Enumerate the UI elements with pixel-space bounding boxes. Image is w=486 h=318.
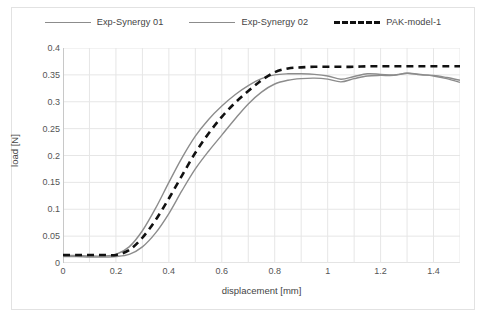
y-axis-tick-label: 0.3 [20, 97, 60, 107]
x-axis-tick-label: 0.4 [163, 266, 176, 276]
plot-area [63, 48, 460, 263]
x-axis-tick-label: 1.2 [374, 266, 387, 276]
y-axis-title: load [N] [9, 121, 20, 181]
y-axis-tick-labels: 00.050.10.150.20.250.30.350.4 [18, 48, 60, 263]
y-axis-tick-label: 0.05 [20, 231, 60, 241]
x-axis-tick-label: 0.2 [110, 266, 123, 276]
chart-legend: Exp-Synergy 01 Exp-Synergy 02 PAK-model-… [63, 13, 423, 31]
x-axis-tick-label: 1.4 [427, 266, 440, 276]
legend-item-exp-synergy-01: Exp-Synergy 01 [45, 17, 164, 27]
x-axis-tick-label: 1 [325, 266, 330, 276]
x-axis-title: displacement [mm] [63, 285, 460, 296]
x-axis-tick-label: 0 [60, 266, 65, 276]
chart-figure: Exp-Synergy 01 Exp-Synergy 02 PAK-model-… [0, 0, 486, 318]
y-axis-tick-label: 0.4 [20, 43, 60, 53]
y-axis-tick-label: 0 [20, 258, 60, 268]
y-axis-tick-label: 0.15 [20, 177, 60, 187]
y-axis-tick-label: 0.25 [20, 124, 60, 134]
legend-line-icon-exp-synergy-01 [45, 22, 91, 23]
legend-label-pak-model-1: PAK-model-1 [386, 17, 441, 27]
legend-dashed-line-icon-pak-model-1 [334, 21, 380, 24]
legend-label-exp-synergy-02: Exp-Synergy 02 [241, 17, 308, 27]
legend-item-exp-synergy-02: Exp-Synergy 02 [189, 17, 308, 27]
legend-label-exp-synergy-01: Exp-Synergy 01 [97, 17, 164, 27]
legend-item-pak-model-1: PAK-model-1 [334, 17, 441, 27]
x-axis-tick-label: 0.6 [216, 266, 229, 276]
y-axis-tick-label: 0.2 [20, 151, 60, 161]
series-line-exp-synergy-01 [63, 73, 460, 256]
y-axis-tick-label: 0.35 [20, 70, 60, 80]
legend-line-icon-exp-synergy-02 [189, 22, 235, 23]
x-axis-tick-labels: 00.20.40.60.811.21.4 [63, 266, 460, 280]
plot-svg [63, 48, 460, 263]
series-line-exp-synergy-02 [63, 73, 460, 257]
y-axis-tick-label: 0.1 [20, 204, 60, 214]
x-axis-tick-label: 0.8 [268, 266, 281, 276]
series-line-pak-model-1 [63, 66, 460, 255]
